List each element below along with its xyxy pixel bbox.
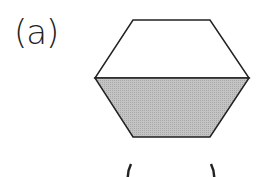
answer-paren-left <box>128 164 131 177</box>
shaded-bottom-half <box>95 78 249 137</box>
answer-paren-right <box>211 164 214 177</box>
hexagon-figure <box>0 0 256 177</box>
unshaded-top-half <box>95 20 249 78</box>
